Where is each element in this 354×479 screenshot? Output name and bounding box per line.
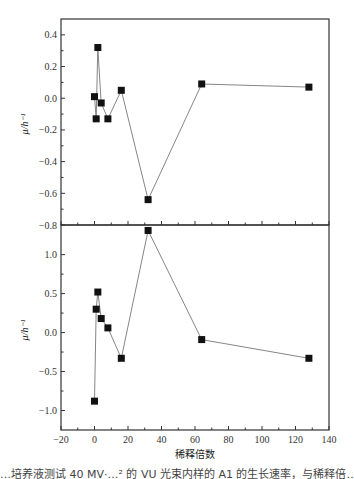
- x-tick-label: −20: [53, 434, 69, 445]
- x-tick-label: 100: [255, 434, 270, 445]
- top-y-tick-label: −0.4: [39, 156, 57, 167]
- top-y-tick-label: 0.4: [45, 29, 58, 40]
- bottom-data-point: [91, 398, 98, 405]
- top-y-tick-label: −0.8: [39, 220, 57, 231]
- bottom-data-point: [93, 306, 100, 313]
- bottom-data-point: [98, 315, 105, 322]
- bottom-data-point: [305, 355, 312, 362]
- top-data-point: [93, 115, 100, 122]
- top-data-point: [104, 115, 111, 122]
- y-axis-title-bottom: μ/h⁻¹: [19, 320, 30, 342]
- bottom-y-tick-label: −1.0: [39, 405, 57, 416]
- bottom-data-point: [94, 289, 101, 296]
- bottom-y-tick-label: 0.5: [45, 288, 58, 299]
- bottom-data-point: [198, 336, 205, 343]
- top-y-tick-label: 0.2: [45, 61, 58, 72]
- x-tick-label: 0: [92, 434, 97, 445]
- top-y-tick-label: −0.2: [39, 124, 57, 135]
- top-y-tick-label: −0.6: [39, 188, 57, 199]
- top-y-tick-label: 0.0: [45, 93, 58, 104]
- top-panel: 0.40.20.0−0.2−0.4−0.6−0.8: [39, 19, 329, 231]
- top-data-point: [91, 93, 98, 100]
- top-series-line: [95, 48, 309, 200]
- figure-caption: …培养液测试 40 MV·…² 的 VU 光束内样的 A1 的生长速率，与稀释倍…: [0, 467, 354, 479]
- x-tick-label: 140: [322, 434, 337, 445]
- bottom-plot-frame: [61, 225, 329, 430]
- y-axis-title-top: μ/h⁻¹: [19, 114, 30, 136]
- bottom-series-line: [95, 231, 309, 402]
- chart-figure: 0.40.20.0−0.2−0.4−0.6−0.8 1.00.50.0−0.5−…: [0, 0, 354, 479]
- x-tick-label: 80: [224, 434, 234, 445]
- x-tick-label: 60: [190, 434, 200, 445]
- bottom-data-point: [145, 227, 152, 234]
- top-data-point: [118, 87, 125, 94]
- top-data-point: [305, 84, 312, 91]
- x-axis-title: 稀释倍数: [175, 448, 215, 460]
- x-tick-label: 120: [288, 434, 303, 445]
- bottom-data-point: [118, 355, 125, 362]
- x-tick-label: 40: [157, 434, 167, 445]
- x-tick-label: 20: [123, 434, 133, 445]
- bottom-panel: 1.00.50.0−0.5−1.0−20020406080100120140: [39, 225, 337, 445]
- bottom-y-tick-label: 0.0: [45, 327, 58, 338]
- bottom-y-tick-label: 1.0: [45, 249, 58, 260]
- top-data-point: [94, 44, 101, 51]
- top-data-point: [198, 80, 205, 87]
- bottom-y-tick-label: −0.5: [39, 366, 57, 377]
- top-data-point: [145, 196, 152, 203]
- bottom-data-point: [104, 324, 111, 331]
- top-data-point: [98, 99, 105, 106]
